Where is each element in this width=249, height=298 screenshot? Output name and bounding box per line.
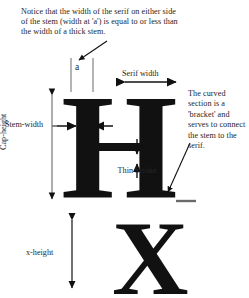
note-serif-width-explanation: Notice that the width of the serif on ei… <box>21 7 181 38</box>
leader-arrow-to-a <box>79 41 107 60</box>
leader-arrow-to-bracket <box>168 143 190 192</box>
label-serif-width: Serif width <box>122 69 159 79</box>
label-stem-width: Stem-width <box>5 120 43 130</box>
note-bracket-explanation: The curved section is a 'bracket' and se… <box>188 89 248 151</box>
label-cap-height: Cap-height <box>0 114 9 150</box>
label-thin-stroke: Thin Stroke <box>116 166 158 177</box>
label-x-height: x-height <box>26 248 53 258</box>
label-a-measure: a <box>75 63 79 73</box>
